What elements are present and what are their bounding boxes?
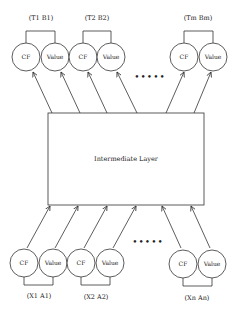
output-bracket-m [184, 31, 213, 43]
input-ellipsis: ••••• [132, 237, 164, 247]
arrow-up-icon [84, 206, 107, 248]
input-cf-node-2: CF [67, 249, 95, 277]
svg-text:CF: CF [180, 53, 189, 60]
svg-text:Value: Value [203, 260, 221, 267]
svg-text:CF: CF [20, 259, 29, 266]
arrow-up-icon [194, 72, 211, 113]
input-value-node-n: Value [198, 250, 226, 278]
output-cf-node-1: CF [12, 43, 40, 71]
output-ellipsis: ••••• [134, 72, 166, 82]
arrow-up-icon [191, 206, 210, 248]
svg-text:Value: Value [102, 53, 120, 60]
output-group-2: (T2 B2) CF Value [69, 14, 125, 71]
input-label-2: (X2 A2) [84, 293, 109, 301]
svg-text:CF: CF [77, 259, 86, 266]
svg-text:Value: Value [101, 259, 119, 266]
svg-text:Value: Value [44, 259, 62, 266]
svg-text:Value: Value [46, 53, 64, 60]
output-value-node-m: Value [199, 43, 227, 71]
output-bracket-1 [26, 31, 55, 43]
input-label-1: (X1 A1) [27, 292, 52, 300]
input-group-2: CF Value (X2 A2) [67, 249, 124, 301]
arrow-up-icon [55, 206, 78, 248]
arrow-up-icon [88, 72, 107, 113]
input-value-node-1: Value [39, 249, 67, 277]
output-arrows [33, 72, 211, 113]
svg-text:CF: CF [22, 53, 31, 60]
output-value-node-1: Value [41, 43, 69, 71]
arrow-up-icon [162, 206, 181, 248]
input-cf-node-n: CF [169, 250, 197, 278]
output-label-1: (T1 B1) [29, 14, 54, 22]
input-group-1: CF Value (X1 A1) [10, 249, 67, 300]
input-group-n: CF Value (Xn An) [169, 250, 226, 302]
diagram-canvas: (T1 B1) CF Value (T2 B2) CF Value (Tm Bm… [0, 0, 242, 311]
input-cf-node-1: CF [10, 249, 38, 277]
arrow-up-icon [33, 72, 52, 113]
svg-text:CF: CF [179, 260, 188, 267]
output-value-node-2: Value [97, 43, 125, 71]
input-bracket-n [183, 278, 212, 286]
intermediate-layer-box: Intermediate Layer [48, 113, 204, 205]
arrow-up-icon [166, 72, 184, 113]
arrow-up-icon [27, 206, 50, 248]
input-label-n: (Xn An) [185, 294, 210, 302]
output-group-1: (T1 B1) CF Value [12, 14, 69, 71]
output-cf-node-m: CF [170, 43, 198, 71]
arrow-up-icon [61, 72, 80, 113]
input-arrows [27, 206, 210, 248]
input-bracket-1 [24, 277, 53, 285]
output-label-m: (Tm Bm) [184, 14, 213, 22]
output-label-2: (T2 B2) [85, 14, 110, 22]
svg-text:CF: CF [79, 53, 88, 60]
input-value-node-2: Value [96, 249, 124, 277]
intermediate-layer-label: Intermediate Layer [94, 155, 159, 163]
output-group-m: (Tm Bm) CF Value [170, 14, 227, 71]
svg-text:Value: Value [204, 53, 222, 60]
output-cf-node-2: CF [69, 43, 97, 71]
output-bracket-2 [83, 31, 111, 43]
input-bracket-2 [81, 277, 110, 285]
